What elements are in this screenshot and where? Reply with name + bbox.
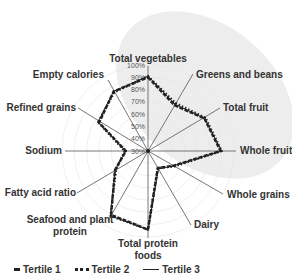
data-point: [173, 165, 175, 167]
legend-label: Tertile 2: [92, 264, 130, 275]
category-label: Whole grains: [227, 189, 290, 200]
category-label: Greens and beans: [196, 69, 283, 80]
legend-item-tertile-3: Tertile 3: [143, 264, 200, 275]
data-point: [174, 103, 176, 105]
tick-label: 40%: [131, 135, 145, 142]
tick-label: 30%: [131, 148, 145, 155]
data-point: [147, 75, 149, 77]
category-label: Dairy: [194, 219, 219, 230]
legend: Tertile 1 Tertile 2 Tertile 3: [14, 264, 200, 275]
data-point: [113, 91, 115, 93]
category-label: foods: [134, 250, 162, 261]
data-point: [114, 169, 116, 171]
legend-label: Tertile 3: [162, 264, 200, 275]
category-label: Total protein: [118, 238, 178, 249]
data-point: [147, 229, 149, 231]
legend-item-tertile-2: Tertile 2: [75, 264, 130, 275]
category-label: protein: [53, 226, 87, 237]
data-point: [221, 150, 223, 152]
data-point: [97, 121, 99, 123]
category-label: Fatty acid ratio: [5, 187, 76, 198]
category-label: Sodium: [25, 145, 62, 156]
data-point: [125, 150, 127, 152]
radar-chart: 30%40%50%60%70%80%90%100% Total vegetabl…: [0, 0, 292, 280]
category-label: Total fruit: [223, 102, 269, 113]
legend-item-tertile-1: Tertile 1: [14, 264, 61, 275]
legend-swatch-tertile-2: [75, 268, 89, 271]
category-label: Seafood and plant: [27, 214, 114, 225]
category-label: Refined grains: [7, 102, 77, 113]
tick-label: 60%: [131, 111, 145, 118]
category-label: Whole fruit: [240, 145, 292, 156]
center-point: [146, 149, 150, 153]
tick-label: 70%: [131, 98, 145, 105]
tick-label: 80%: [131, 86, 145, 93]
legend-label: Tertile 1: [23, 264, 61, 275]
legend-swatch-tertile-1: [14, 268, 20, 271]
data-point: [158, 168, 160, 170]
data-point: [204, 118, 206, 120]
legend-swatch-tertile-3: [143, 269, 159, 270]
category-label: Empty calories: [33, 69, 105, 80]
category-label: Total vegetables: [109, 53, 187, 64]
tick-label: 50%: [131, 123, 145, 130]
